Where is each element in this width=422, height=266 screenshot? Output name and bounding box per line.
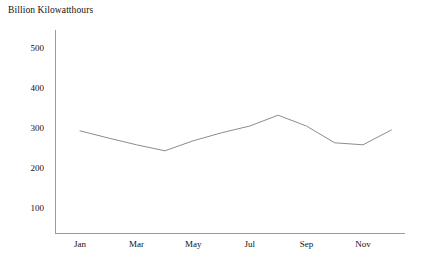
x-axis-tick-label: Jan xyxy=(60,240,100,249)
y-axis-tick-label: 500 xyxy=(8,44,44,53)
x-axis-tick-label: Sep xyxy=(286,240,326,249)
x-axis-tick-label: Mar xyxy=(117,240,157,249)
x-axis-tick-label: May xyxy=(173,240,213,249)
y-axis-tick-label: 100 xyxy=(8,204,44,213)
y-axis-tick-label: 200 xyxy=(8,164,44,173)
x-axis-tick-label: Nov xyxy=(343,240,383,249)
chart-plot-area xyxy=(0,0,422,266)
y-axis-tick-label: 400 xyxy=(8,84,44,93)
chart-container: Billion Kilowatthours 100200300400500 Ja… xyxy=(0,0,422,266)
x-axis-tick-label: Jul xyxy=(230,240,270,249)
y-axis-tick-label: 300 xyxy=(8,124,44,133)
data-series-line xyxy=(80,115,391,151)
